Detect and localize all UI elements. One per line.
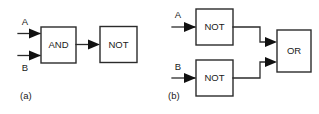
logic-gate-figure: AND NOT A B (a) NOT — [0, 0, 319, 114]
circuit-a-label-b: B — [22, 62, 28, 73]
circuit-b-input-b-arrowhead — [184, 73, 196, 83]
circuit-a-input-b-arrowhead — [29, 51, 41, 61]
circuit-b-label-a: A — [175, 9, 182, 20]
circuit-b-not-gate-top-label: NOT — [204, 21, 224, 32]
logic-diagram-canvas: AND NOT A B (a) NOT — [0, 0, 319, 114]
and-to-not-arrowhead — [88, 40, 100, 50]
circuit-b-input-a-arrowhead — [184, 22, 196, 32]
circuit-a-input-a-arrowhead — [29, 29, 41, 39]
circuit-a: AND NOT A B (a) — [18, 16, 137, 101]
circuit-b-caption: (b) — [168, 90, 180, 101]
circuit-b-not-gate-bottom-label: NOT — [204, 72, 224, 83]
or-gate-label: OR — [287, 45, 301, 56]
circuit-b: NOT NOT OR A B (b) — [168, 9, 311, 101]
circuit-b-or-input-top-arrowhead — [265, 37, 277, 47]
circuit-a-caption: (a) — [20, 90, 32, 101]
circuit-b-or-input-bottom-arrowhead — [265, 57, 277, 67]
circuit-b-label-b: B — [175, 61, 181, 72]
circuit-a-not-gate-label: NOT — [108, 39, 128, 50]
circuit-a-label-a: A — [22, 16, 29, 27]
and-gate-label: AND — [48, 39, 68, 50]
